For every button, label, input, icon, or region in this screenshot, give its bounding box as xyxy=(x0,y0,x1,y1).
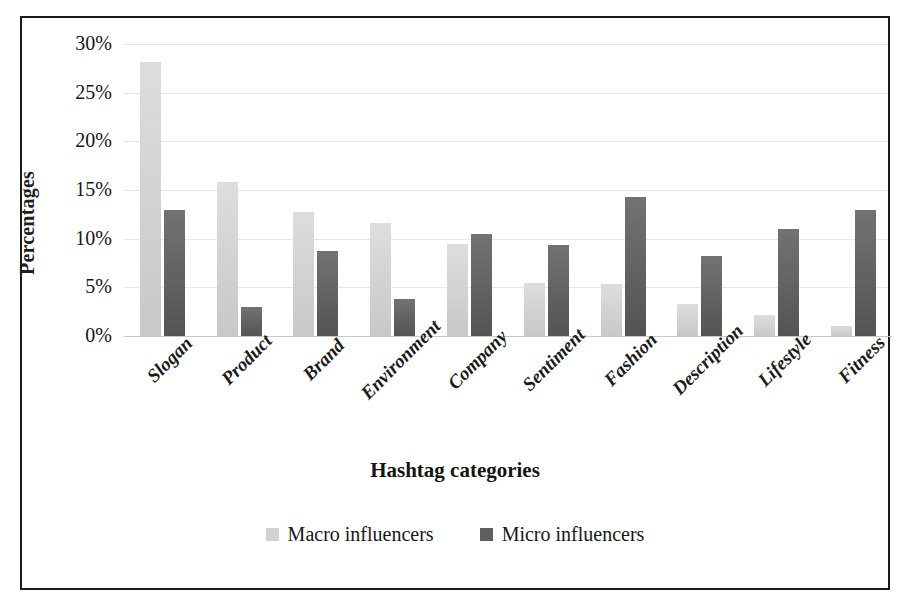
y-tick-label: 10% xyxy=(75,227,112,250)
bar-group xyxy=(278,44,355,336)
x-axis-category-label: Slogan xyxy=(143,333,197,387)
x-axis-category-label: Brand xyxy=(298,334,349,385)
bar xyxy=(217,182,238,336)
bar xyxy=(140,62,161,336)
x-axis-label-cell: Lifestyle xyxy=(738,336,815,362)
bar xyxy=(831,326,852,336)
x-axis-label-cell: Slogan xyxy=(124,336,201,362)
x-axis-label-cell: Sentiment xyxy=(508,336,585,362)
x-axis-category-label: Fashion xyxy=(600,329,662,391)
y-tick-label: 0% xyxy=(85,324,112,347)
x-axis-label-cell: Company xyxy=(431,336,508,362)
x-axis-label-cell: Fitness xyxy=(815,336,892,362)
legend-label: Macro influencers xyxy=(288,523,434,546)
bar xyxy=(447,244,468,336)
bar xyxy=(293,212,314,336)
bar xyxy=(370,223,391,336)
x-axis-label-cell: Fashion xyxy=(585,336,662,362)
bar-group xyxy=(585,44,662,336)
x-axis-category-labels: SloganProductBrandEnvironmentCompanySent… xyxy=(124,336,892,362)
legend-item: Micro influencers xyxy=(480,523,645,546)
legend-swatch-macro xyxy=(266,528,279,541)
legend-swatch-micro xyxy=(480,528,493,541)
bar-group xyxy=(201,44,278,336)
bar xyxy=(317,251,338,336)
bar xyxy=(754,315,775,336)
bar xyxy=(701,256,722,336)
y-tick-label: 25% xyxy=(75,81,112,104)
bar xyxy=(601,284,622,336)
y-tick-label: 20% xyxy=(75,129,112,152)
bar-group xyxy=(354,44,431,336)
bar xyxy=(677,304,698,336)
x-axis-label-cell: Product xyxy=(201,336,278,362)
chart-legend: Macro influencersMicro influencers xyxy=(22,523,888,546)
y-tick-label: 15% xyxy=(75,178,112,201)
bar xyxy=(625,197,646,336)
legend-label: Micro influencers xyxy=(502,523,645,546)
y-tick-label: 30% xyxy=(75,32,112,55)
figure-frame: Percentages 0%5%10%15%20%25%30% SloganPr… xyxy=(20,16,890,590)
x-axis-title: Hashtag categories xyxy=(22,458,888,483)
bar-group xyxy=(124,44,201,336)
bar xyxy=(548,245,569,336)
x-axis-category-label: Company xyxy=(443,326,512,395)
bar-group xyxy=(431,44,508,336)
x-axis-label-cell: Brand xyxy=(278,336,355,362)
bar xyxy=(855,210,876,336)
x-axis-category-label: Fitness xyxy=(833,332,889,388)
bar xyxy=(471,234,492,336)
bar xyxy=(394,299,415,336)
bar-group xyxy=(508,44,585,336)
y-tick-label: 5% xyxy=(85,275,112,298)
bar-group xyxy=(738,44,815,336)
legend-item: Macro influencers xyxy=(266,523,434,546)
bar-group xyxy=(815,44,892,336)
x-axis-label-cell: Environment xyxy=(354,336,431,362)
x-axis-category-label: Lifestyle xyxy=(753,328,816,391)
x-axis-category-label: Product xyxy=(217,330,277,390)
bars-layer xyxy=(124,44,892,336)
bar-group xyxy=(662,44,739,336)
x-axis-label-cell: Description xyxy=(662,336,739,362)
bar xyxy=(524,283,545,336)
bar xyxy=(778,229,799,336)
y-axis-title: Percentages xyxy=(16,113,39,333)
bar xyxy=(164,210,185,336)
plot-area: 0%5%10%15%20%25%30% SloganProductBrandEn… xyxy=(124,44,892,362)
plot-inner: 0%5%10%15%20%25%30% xyxy=(124,44,892,336)
